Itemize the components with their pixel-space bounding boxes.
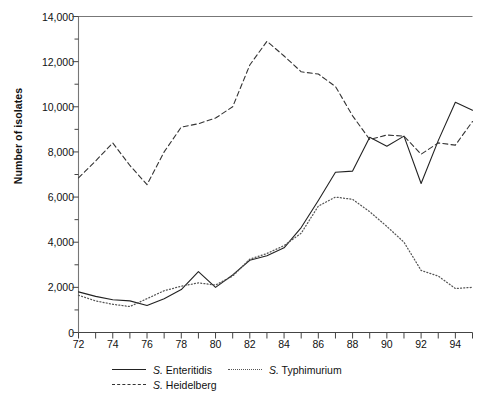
x-axis-tick-label: 86 <box>303 339 333 350</box>
dotted-line-icon <box>228 369 262 371</box>
x-axis-tick-label: 88 <box>338 339 368 350</box>
dashed-line-icon <box>112 384 146 386</box>
chart-legend: S. Enteritidis S. Typhimurium S. Heidelb… <box>112 362 358 392</box>
x-axis-tick-label: 82 <box>235 339 265 350</box>
solid-line-icon <box>112 369 146 371</box>
legend-label-heidelberg: S. Heidelberg <box>153 379 217 391</box>
x-axis-tick-label: 72 <box>64 339 94 350</box>
x-axis-tick-label: 76 <box>132 339 162 350</box>
series-line-s-enteritidis <box>79 102 473 305</box>
x-axis-tick-label: 94 <box>440 339 470 350</box>
legend-row-1: S. Enteritidis S. Typhimurium <box>112 362 358 377</box>
chart-figure: Number of isolates 02,0004,0006,0008,000… <box>0 0 494 400</box>
x-axis-tick-label: 92 <box>406 339 436 350</box>
axis-frame <box>79 17 473 333</box>
x-axis-tick-label: 80 <box>201 339 231 350</box>
legend-label-typhimurium: S. Typhimurium <box>269 364 342 376</box>
x-axis-tick-label: 74 <box>98 339 128 350</box>
legend-row-2: S. Heidelberg <box>112 377 358 392</box>
x-axis-tick-label: 78 <box>166 339 196 350</box>
legend-label-enteritidis: S. Enteritidis <box>153 364 212 376</box>
legend-item-typhimurium: S. Typhimurium <box>228 364 342 376</box>
x-axis-tick-label: 84 <box>269 339 299 350</box>
x-axis-tick-label: 90 <box>372 339 402 350</box>
legend-item-heidelberg: S. Heidelberg <box>112 379 217 391</box>
legend-item-enteritidis: S. Enteritidis <box>112 364 212 376</box>
